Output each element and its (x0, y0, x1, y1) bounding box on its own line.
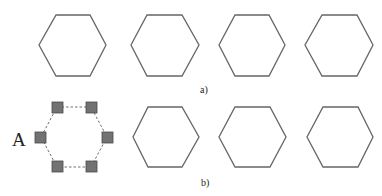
hexagon-a2 (131, 15, 199, 76)
node-square-bottom-left (52, 161, 63, 172)
node-square-right (102, 132, 113, 143)
panel-b-structure-a (35, 102, 113, 172)
diagram-svg: a) A b) (0, 0, 382, 196)
node-square-bottom-right (86, 161, 97, 172)
hexagon-a4 (305, 15, 373, 76)
panel-b (133, 107, 373, 167)
hexagon-a1 (39, 15, 106, 76)
hexagon-b2 (219, 107, 286, 167)
node-square-left (35, 132, 46, 143)
figure-canvas: a) A b) (0, 0, 382, 196)
node-label-a: A (12, 129, 26, 150)
hexagon-b1 (133, 107, 199, 167)
hexagon-b3 (307, 107, 373, 167)
dashed-hexagon (41, 107, 107, 167)
node-square-top-right (86, 102, 97, 113)
panel-a-label: a) (200, 84, 208, 96)
node-square-top-left (52, 102, 63, 113)
hexagon-a3 (219, 15, 285, 76)
panel-b-label: b) (201, 177, 209, 189)
panel-a (39, 15, 373, 76)
